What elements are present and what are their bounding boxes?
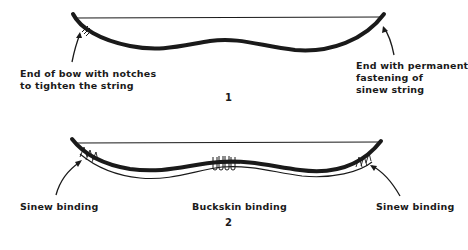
bowstring bbox=[77, 142, 380, 143]
bow-stave bbox=[73, 14, 384, 50]
arrow-right-end bbox=[382, 26, 394, 55]
label-fastened-end: End with permanent fastening of sinew st… bbox=[356, 60, 468, 96]
figure-number-1: 1 bbox=[225, 92, 232, 103]
label-buckskin-binding: Buckskin binding bbox=[192, 201, 287, 213]
arrow-right-binding bbox=[370, 165, 400, 196]
label-notched-end: End of bow with notches to tighten the s… bbox=[20, 68, 156, 92]
figure-2-bow bbox=[56, 139, 400, 196]
label-sinew-binding-right: Sinew binding bbox=[376, 201, 454, 213]
label-sinew-binding-left: Sinew binding bbox=[20, 201, 98, 213]
bowstring bbox=[76, 17, 382, 18]
figure-number-2: 2 bbox=[225, 217, 232, 228]
arrow-left-end bbox=[72, 32, 82, 62]
arrow-left-binding bbox=[56, 160, 82, 195]
figure-1-bow bbox=[72, 14, 394, 62]
